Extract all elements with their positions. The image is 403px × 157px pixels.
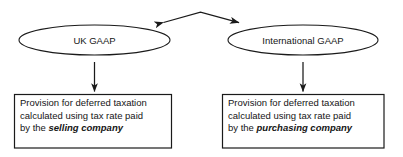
ellipse-label-uk-gaap: UK GAAP (19, 36, 170, 46)
box-text-selling: Provision for deferred taxation calculat… (20, 97, 170, 135)
diagram-canvas: UK GAAP International GAAP Provision for… (0, 0, 403, 157)
box-left-line-3: by the selling company (20, 122, 170, 135)
box-left-line-3-prefix: by the (20, 122, 49, 133)
box-left-line-3-emphasis: selling company (49, 122, 123, 133)
box-right-line-2: calculated using tax rate paid (228, 110, 383, 123)
box-text-purchasing: Provision for deferred taxation calculat… (228, 97, 383, 135)
box-left-line-1: Provision for deferred taxation (20, 97, 170, 110)
box-right-line-3-prefix: by the (228, 122, 257, 133)
box-right-line-1: Provision for deferred taxation (228, 97, 383, 110)
box-left-line-2: calculated using tax rate paid (20, 110, 170, 123)
box-right-line-3: by the purchasing company (228, 122, 383, 135)
ellipse-label-international-gaap: International GAAP (228, 36, 378, 46)
bidirectional-arrow (164, 12, 240, 22)
box-right-line-3-emphasis: purchasing company (257, 122, 353, 133)
